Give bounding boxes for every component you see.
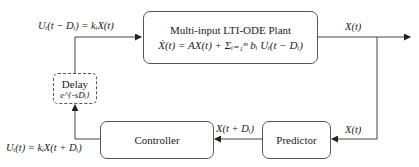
delayed-input-label: Uᵢ(t − Dᵢ) = kᵢX(t): [38, 20, 114, 31]
predictor-block: Predictor: [262, 121, 331, 159]
plant-title: Multi-input LTI-ODE Plant: [170, 24, 291, 36]
delay-title: Delay: [62, 78, 88, 90]
controller-block: Controller: [100, 121, 214, 159]
delay-block: Delay e^{-sDᵢ}: [53, 73, 97, 104]
plant-equation: Ẋ(t) = AX(t) + Σᵢ₌₁ᵐ bᵢ Uᵢ(t − Dᵢ): [158, 39, 303, 52]
plant-block: Multi-input LTI-ODE Plant Ẋ(t) = AX(t) +…: [143, 11, 318, 64]
delay-transfer: e^{-sDᵢ}: [60, 90, 89, 100]
predictor-title: Predictor: [276, 134, 316, 146]
plant-output-label: X(t): [345, 21, 361, 32]
predictor-input-label: X(t): [345, 124, 361, 135]
controller-title: Controller: [134, 134, 179, 146]
control-law-label: Uᵢ(t) = kᵢX(t + Dᵢ): [6, 142, 82, 153]
predicted-state-label: X(t + Dᵢ): [216, 123, 254, 134]
